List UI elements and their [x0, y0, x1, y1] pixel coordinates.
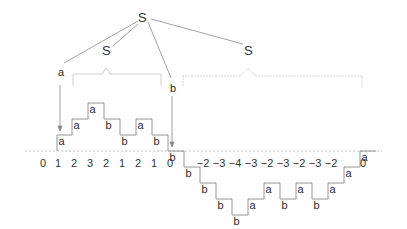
height-label: 2 [71, 157, 77, 169]
step-label-b: b [186, 167, 192, 179]
tree-right-child-label: S [244, 43, 253, 58]
step-label-b: b [282, 199, 288, 211]
step-label-a: a [138, 119, 145, 131]
tree-leaf-a-label: a [58, 66, 65, 78]
brace-right [183, 69, 362, 88]
height-label: −2 [325, 157, 338, 169]
height-label: −4 [229, 157, 242, 169]
step-label-b: b [154, 135, 160, 147]
height-label: −3 [213, 157, 226, 169]
height-label: 2 [103, 157, 109, 169]
tree-edges [64, 19, 243, 78]
tree-leaf-b-label: b [170, 82, 176, 94]
height-label: 3 [87, 157, 93, 169]
height-label: 1 [151, 157, 157, 169]
tree-left-child-label: S [102, 43, 111, 58]
height-label: −2 [197, 157, 210, 169]
dyck-path-diagram: S S S a b aaabbabbbbbbaababaaa 012321210… [0, 0, 407, 229]
step-label-a: a [266, 183, 273, 195]
brace-left [73, 68, 161, 86]
step-label-a: a [346, 167, 353, 179]
height-label: −3 [309, 157, 322, 169]
height-label: 1 [119, 157, 125, 169]
step-label-a: a [74, 119, 81, 131]
step-label-a: a [59, 135, 66, 147]
height-label: 1 [55, 157, 61, 169]
step-label-b: b [202, 183, 208, 195]
step-label-a: a [330, 183, 337, 195]
step-label-b: b [106, 119, 112, 131]
height-label: −3 [245, 157, 258, 169]
height-label: 0 [167, 157, 173, 169]
height-labels: 012321210−2−3−4−3−2−3−2−3−20 [40, 157, 366, 169]
height-label: −2 [261, 157, 274, 169]
height-label: 0 [360, 157, 366, 169]
step-label-a: a [298, 183, 305, 195]
height-label: −3 [277, 157, 290, 169]
step-label-b: b [122, 135, 128, 147]
height-label: 2 [135, 157, 141, 169]
step-label-a: a [250, 199, 257, 211]
step-label-b: b [314, 199, 320, 211]
step-label-b: b [218, 199, 224, 211]
height-label: 0 [40, 157, 46, 169]
step-label-b: b [234, 215, 240, 227]
step-label-a: a [90, 103, 97, 115]
height-label: −2 [293, 157, 306, 169]
tree-root-label: S [138, 10, 147, 25]
